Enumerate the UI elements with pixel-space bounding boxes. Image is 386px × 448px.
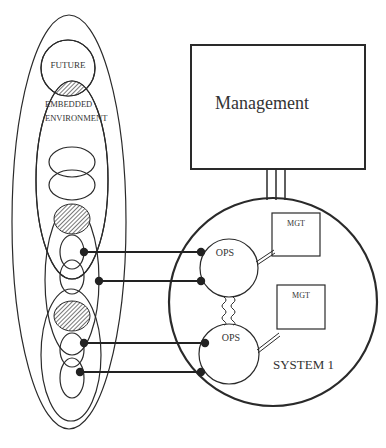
connector-1 [80,248,205,256]
system-label: SYSTEM 1 [273,357,334,372]
ops-coupling-squiggles [222,297,235,325]
embedded-bottom-hatch [54,204,90,234]
ops-mgt-links [256,250,280,353]
lower-environment-outer-ring [22,247,120,433]
mgt-label-upper: MGT [287,219,305,228]
management-label: Management [215,93,309,113]
embedded-label-line1: EMBEDDED [45,99,92,109]
ops-label-lower: OPS [222,332,240,343]
connector-2 [95,277,205,285]
future-label: FUTURE [50,60,86,70]
embedded-inner-ellipse-bottom [49,170,95,200]
middle-bottom-hatch [54,301,90,331]
connector-4 [76,368,205,376]
mgt-label-lower: MGT [292,291,310,300]
lower-inner-circle-bottom [60,358,84,398]
embedded-ellipse-outline [36,81,108,279]
viable-system-diagram: FUTURE EMBEDDED ENVIRONMENT Management S… [0,0,386,448]
connector-3 [80,339,209,347]
embedded-inner-ellipse-top [49,147,95,177]
environment-connectors [76,248,209,376]
management-channel [267,168,285,200]
embedded-label-line2: ENVIRONMENT [45,113,108,123]
lower-inner-circle-top [60,333,84,367]
ops-label-upper: OPS [216,247,234,258]
hatched-overlaps [36,40,108,331]
